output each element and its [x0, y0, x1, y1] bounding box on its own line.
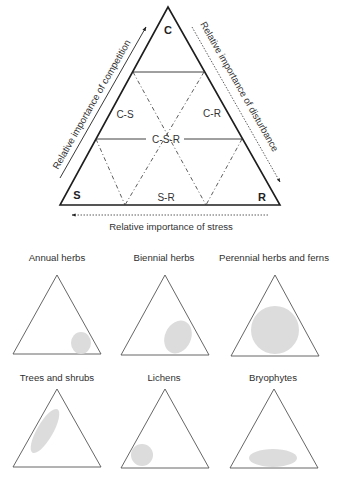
panel-title: Lichens: [147, 372, 180, 383]
disturbance-arrow: [192, 27, 280, 182]
strategy-region-blob: [251, 306, 299, 354]
axis-label-competition: Relative importance of competition: [50, 38, 132, 171]
panel-triangle: [13, 389, 101, 467]
panel-title: Trees and shrubs: [20, 372, 95, 383]
panel-biennial-herbs: Biennial herbs: [121, 252, 209, 358]
axis-label-stress: Relative importance of stress: [109, 221, 233, 232]
panel-title: Annual herbs: [29, 252, 86, 263]
strategy-region-blob: [131, 444, 153, 466]
diagonal-divider: [206, 139, 242, 205]
panel-trees-and-shrubs: Trees and shrubs: [13, 372, 101, 467]
region-label-sr: S-R: [157, 192, 174, 203]
competition-arrow: [60, 27, 146, 178]
panel-annual-herbs: Annual herbs: [13, 252, 101, 354]
strategy-region-blob: [71, 332, 91, 354]
panel-title: Perennial herbs and ferns: [219, 252, 329, 263]
panel-bryophytes: Bryophytes: [230, 372, 318, 468]
region-label-csr: C-S-R: [152, 134, 180, 145]
diagonal-divider: [96, 139, 125, 205]
axis-disturbance: Relative importance of disturbance: [192, 20, 281, 182]
panel-title: Biennial herbs: [134, 252, 195, 263]
strategy-region-blob: [249, 449, 297, 467]
axis-stress: Relative importance of stress: [72, 215, 268, 232]
strategy-region-blob: [26, 405, 65, 456]
panel-lichens: Lichens: [121, 372, 209, 468]
panel-perennial-herbs-and-ferns: Perennial herbs and ferns: [219, 252, 329, 356]
vertex-label-r: R: [258, 191, 266, 203]
panel-title: Bryophytes: [249, 372, 297, 383]
vertex-label-s: S: [73, 189, 80, 201]
csr-diagram: C S R C-S C-R C-S-R S-R Relative importa…: [0, 0, 340, 483]
region-label-cs: C-S: [116, 109, 134, 120]
region-label-cr: C-R: [203, 108, 221, 119]
axis-competition: Relative importance of competition: [50, 27, 146, 178]
vertex-label-c: C: [164, 24, 172, 36]
